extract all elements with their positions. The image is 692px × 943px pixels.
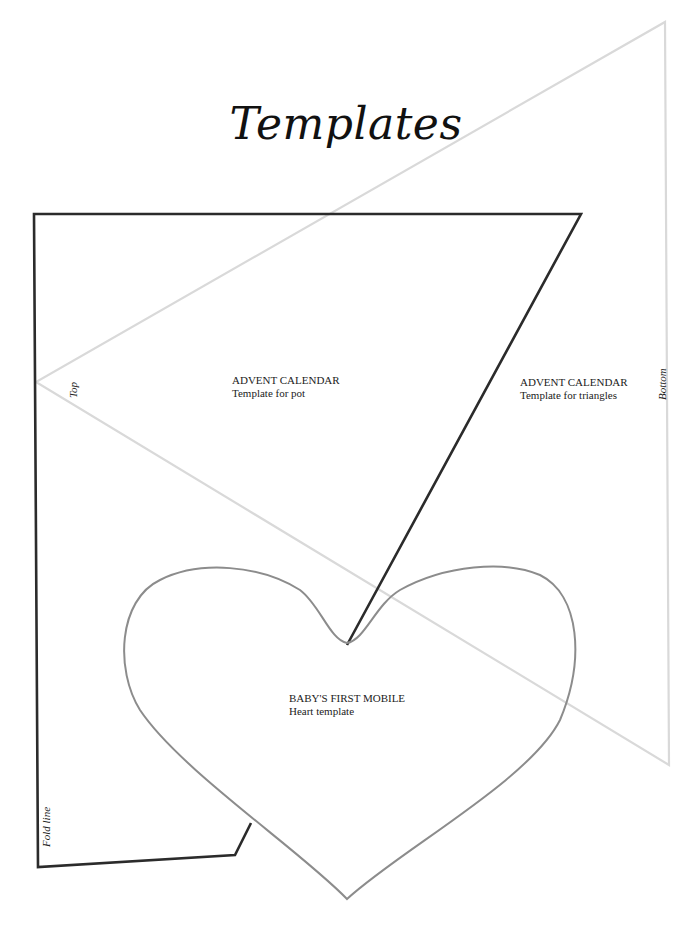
heart-template-outline [124,567,575,899]
triangle-template-label: ADVENT CALENDAR Template for triangles [520,376,628,402]
pot-template-heading: ADVENT CALENDAR [232,374,340,387]
template-shapes [0,0,692,943]
pot-template-label: ADVENT CALENDAR Template for pot [232,374,340,400]
fold-line-label: Fold line [40,807,52,847]
triangle-template-heading: ADVENT CALENDAR [520,376,628,389]
heart-template-heading: BABY'S FIRST MOBILE [289,692,405,705]
bottom-edge-label: Bottom [656,368,668,400]
heart-template-subtitle: Heart template [289,705,405,718]
triangle-template-subtitle: Template for triangles [520,389,628,402]
pot-template-subtitle: Template for pot [232,387,340,400]
top-edge-label: Top [67,382,79,398]
pot-template-outline [34,214,581,867]
heart-template-label: BABY'S FIRST MOBILE Heart template [289,692,405,718]
